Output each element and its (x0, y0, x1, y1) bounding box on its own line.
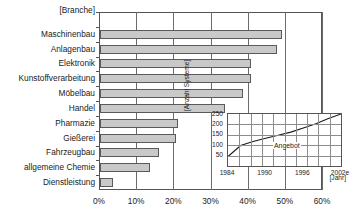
bar-gießerei (100, 134, 176, 143)
axis-tick-6 (96, 116, 100, 117)
bar-allgemeine-chemie (100, 163, 150, 172)
axis-tick-0 (96, 27, 100, 28)
category-label-möbelbau: Möbelbau (59, 89, 95, 98)
inset-gridline-v-2 (251, 114, 252, 166)
bar-fahrzeugbau (100, 148, 159, 157)
inset-series-label: Angebot (273, 142, 301, 149)
category-label-handel: Handel (69, 104, 95, 113)
inset-gridline-v-4 (273, 114, 274, 166)
inset-gridline-v-9 (330, 114, 331, 166)
axis-tick-7 (96, 131, 100, 132)
bar-elektronik (100, 59, 251, 68)
axis-tick-top (96, 12, 100, 13)
inset-gridline-h-200 (228, 124, 341, 125)
inset-x-tick-label-1996: 1996 (287, 169, 317, 176)
x-tick-label-0: 0% (79, 196, 119, 206)
x-tick-label-60: 60% (302, 196, 342, 206)
category-label-gießerei: Gießerei (63, 134, 95, 143)
inset-line-chart: [Anzahl Systeme] [Jahr] Angebot 50100150… (196, 111, 346, 185)
x-tick-label-40: 40% (228, 196, 268, 206)
axis-tick-3 (96, 71, 100, 72)
inset-y-tick-label-250: 250 (207, 110, 223, 117)
axis-tick-1 (96, 42, 100, 43)
inset-y-tick-label-100: 100 (207, 141, 223, 148)
inset-y-tick-label-50: 50 (207, 151, 223, 158)
y-axis-title: [Branche] (59, 6, 95, 15)
x-tick-label-20: 20% (153, 196, 193, 206)
category-label-elektronik: Elektronik (59, 59, 95, 68)
inset-gridline-v-8 (318, 114, 319, 166)
category-label-kunstoffverarbeitung: Kunstoffverarbeitung (19, 74, 95, 83)
inset-gridline-h-50 (228, 156, 341, 157)
category-label-fahrzeugbau: Fahrzeugbau (46, 148, 95, 157)
category-label-maschinenbau: Maschinenbau (41, 30, 95, 39)
bar-dienstleistung (100, 178, 113, 187)
inset-plot-area: Angebot (227, 113, 342, 167)
inset-gridline-v-7 (307, 114, 308, 166)
axis-tick-5 (96, 101, 100, 102)
chart-root: [Branche] MaschinenbauAnlagenbauElektron… (0, 0, 357, 220)
category-label-allgemeine-chemie: allgemeine Chemie (24, 163, 95, 172)
axis-tick-10 (96, 175, 100, 176)
bar-maschinenbau (100, 30, 282, 39)
category-label-dienstleistung: Dienstleistung (43, 178, 95, 187)
inset-x-tick-label-1984: 1984 (212, 169, 242, 176)
axis-tick-4 (96, 86, 100, 87)
inset-gridline-v-1 (239, 114, 240, 166)
bar-pharmazie (100, 119, 178, 128)
x-tick-label-10: 10% (116, 196, 156, 206)
inset-x-tick-label-2002e: 2002e (325, 169, 355, 176)
category-label-pharmazie: Pharmazie (55, 119, 95, 128)
bar-kunstoffverarbeitung (100, 74, 251, 83)
inset-y-tick-label-150: 150 (207, 130, 223, 137)
x-tick-label-30: 30% (191, 196, 231, 206)
inset-gridline-v-5 (285, 114, 286, 166)
x-tick-label-50: 50% (265, 196, 305, 206)
inset-gridline-h-150 (228, 135, 341, 136)
inset-gridline-v-6 (296, 114, 297, 166)
inset-x-tick-label-1990: 1990 (250, 169, 280, 176)
axis-tick-2 (96, 57, 100, 58)
inset-y-axis-title: [Anzahl Systeme] (183, 53, 190, 111)
axis-tick-8 (96, 146, 100, 147)
category-label-anlagenbau: Anlagenbau (51, 45, 95, 54)
bar-möbelbau (100, 89, 243, 98)
axis-tick-9 (96, 160, 100, 161)
inset-gridline-v-3 (262, 114, 263, 166)
inset-y-tick-label-200: 200 (207, 120, 223, 127)
